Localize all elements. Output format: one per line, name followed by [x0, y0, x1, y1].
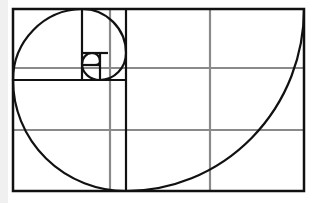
rule-of-thirds-grid: [13, 9, 304, 191]
outer-frame: [13, 9, 304, 191]
golden-spiral-diagram: [0, 0, 311, 203]
golden-spiral-curve: [13, 9, 304, 191]
